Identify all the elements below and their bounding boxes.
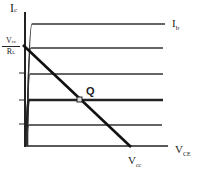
load-line [23, 45, 131, 147]
ib-curve-2 [27, 48, 163, 146]
ib-curve-5 [27, 125, 162, 146]
x-axis-label: VCE [175, 144, 191, 157]
y-intercept-label: Vcc RL [2, 37, 20, 56]
x-intercept-label: Vcc [128, 155, 141, 168]
y-axis-label: Ic [10, 2, 17, 14]
ib-curve-3 [27, 74, 163, 146]
characteristics-diagram [0, 0, 197, 176]
q-point-label: Q [86, 86, 95, 97]
ib-curve-1 [27, 24, 165, 146]
curve-family-label: Ib [172, 18, 179, 32]
q-point-marker [77, 97, 82, 102]
ib-curve-q [27, 100, 163, 146]
